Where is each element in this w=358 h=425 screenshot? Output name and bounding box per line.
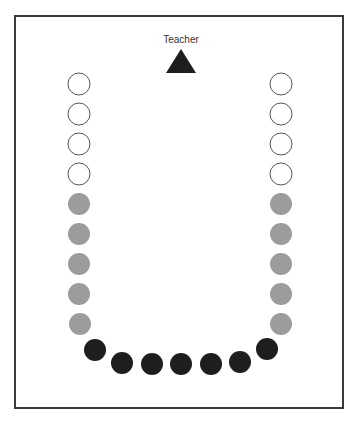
seat-left-8-gray — [68, 283, 90, 305]
seat-bottom-7-dark — [256, 338, 278, 360]
seat-right-6-gray — [270, 223, 292, 245]
seating-diagram: Teacher — [0, 0, 358, 425]
classroom-frame — [15, 16, 343, 408]
student-seats — [68, 73, 292, 375]
teacher-triangle-icon — [166, 49, 196, 73]
seat-left-5-gray — [68, 193, 90, 215]
seat-bottom-4-dark — [170, 353, 192, 375]
seat-right-2-empty — [270, 103, 292, 125]
seat-left-4-empty — [68, 163, 90, 185]
teacher-label: Teacher — [163, 34, 199, 45]
seat-left-7-gray — [68, 253, 90, 275]
seat-right-3-empty — [270, 133, 292, 155]
seat-bottom-3-dark — [141, 353, 163, 375]
seat-left-2-empty — [68, 103, 90, 125]
seat-bottom-5-dark — [200, 353, 222, 375]
seat-left-6-gray — [68, 223, 90, 245]
seat-left-9-gray — [69, 313, 91, 335]
seat-bottom-1-dark — [84, 339, 106, 361]
seat-right-9-gray — [270, 313, 292, 335]
seat-right-8-gray — [270, 283, 292, 305]
seat-right-1-empty — [270, 73, 292, 95]
seat-right-7-gray — [270, 253, 292, 275]
seat-left-1-empty — [68, 73, 90, 95]
seat-bottom-6-dark — [229, 351, 251, 373]
seat-right-5-gray — [270, 193, 292, 215]
seat-bottom-2-dark — [111, 352, 133, 374]
seat-left-3-empty — [68, 133, 90, 155]
seat-right-4-empty — [270, 163, 292, 185]
